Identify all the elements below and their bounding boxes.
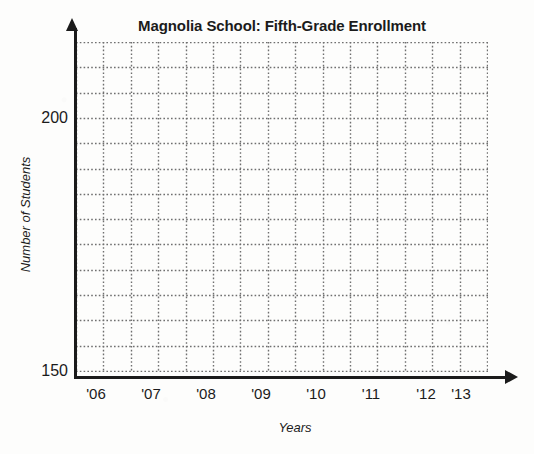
y-axis-title: Number of Students [18, 145, 33, 285]
x-tick-label: '10 [291, 386, 341, 402]
x-tick-label: '13 [436, 386, 486, 402]
x-tick-label: '08 [181, 386, 231, 402]
x-tick-label: '07 [126, 386, 176, 402]
x-tick-label: '06 [71, 386, 121, 402]
x-axis-title: Years [235, 420, 355, 435]
x-tick-label: '09 [236, 386, 286, 402]
x-tick-label: '11 [346, 386, 396, 402]
x-axis-tick-labels: '06'07'08'09'10'11'12'13 [0, 0, 534, 454]
enrollment-chart: Magnolia School: Fifth-Grade Enrollment … [0, 0, 534, 454]
